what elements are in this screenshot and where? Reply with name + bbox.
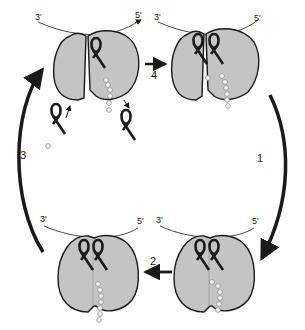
incoming-trna-icon	[52, 104, 66, 134]
mrna-strand	[160, 226, 254, 238]
outgoing-trna-icon	[122, 110, 136, 140]
step-4-label: 4	[151, 69, 157, 81]
ribosome-cycle-diagram: 1 2 3 4 3' 5' 3' 5'	[0, 0, 305, 330]
mrna-5-prime-label: 5'	[252, 216, 259, 226]
mrna-3-prime-label: 3'	[40, 214, 47, 224]
ribosome-closed	[174, 236, 254, 312]
mrna-5-prime-label: 5'	[135, 10, 142, 20]
mrna-strand	[44, 226, 138, 238]
ribosome-closed	[58, 236, 138, 312]
cycle-arrow-step-1: 1	[257, 95, 286, 258]
ribosome-panel-top-left: 3' 5'	[35, 10, 142, 148]
step-2-label: 2	[150, 255, 156, 267]
cycle-arrow-step-2: 2	[146, 255, 172, 272]
ribosome-small-subunit	[172, 31, 204, 100]
mrna-3-prime-label: 3'	[154, 12, 161, 22]
step-1-label: 1	[257, 152, 263, 164]
ribosome-large-subunit	[206, 29, 259, 100]
mrna-3-prime-label: 3'	[35, 12, 42, 22]
cycle-arrow-step-4: 4	[145, 64, 165, 81]
mrna-strand	[38, 20, 140, 35]
mrna-3-prime-label: 3'	[156, 215, 163, 225]
ribosome-panel-bottom-right: 3' 5'	[156, 215, 259, 312]
ribosome-panel-top-right: 3' 5'	[154, 12, 261, 108]
ribosome-panel-bottom-left: 3' 5'	[40, 214, 144, 322]
cycle-arrow-step-3: 3	[19, 70, 43, 252]
ribosome-large-subunit	[88, 31, 139, 100]
step-3-label: 3	[20, 149, 26, 161]
mrna-5-prime-label: 5'	[254, 13, 261, 23]
ribosome-small-subunit	[54, 33, 86, 100]
mrna-5-prime-label: 5'	[137, 216, 144, 226]
